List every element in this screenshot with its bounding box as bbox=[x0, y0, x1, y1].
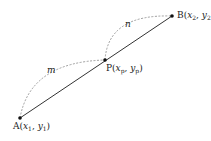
label-point-p: P(xp, yp) bbox=[106, 64, 143, 74]
segment-ab bbox=[20, 16, 172, 118]
point-b bbox=[170, 14, 174, 18]
point-a bbox=[18, 116, 22, 120]
label-ratio-n: n bbox=[125, 20, 131, 29]
point-p bbox=[103, 58, 107, 62]
label-ratio-m: m bbox=[47, 66, 56, 75]
label-point-b: B(x2, y2) bbox=[177, 11, 211, 21]
label-point-a: A(x1, y1) bbox=[13, 122, 50, 132]
